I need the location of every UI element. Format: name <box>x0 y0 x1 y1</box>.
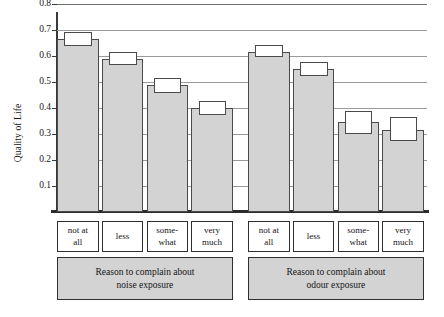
y-axis-tick-label: 0.1 <box>17 180 51 190</box>
y-axis-tick-label: 0.8 <box>17 0 51 8</box>
bar <box>191 108 233 212</box>
category-label-line1: some- <box>347 225 369 237</box>
y-axis-tick-label: 0.7 <box>17 24 51 34</box>
bar <box>248 52 290 212</box>
y-axis-tick-mark <box>52 56 57 57</box>
category-label-line2: much <box>202 237 222 249</box>
category-label-line1: not at <box>259 225 279 237</box>
category-label-box: verymuch <box>191 221 233 252</box>
y-axis-tick-mark <box>52 160 57 161</box>
confidence-interval-box <box>390 117 417 141</box>
group-label-line1: Reason to complain about <box>95 267 194 277</box>
group-label-line2: odour exposure <box>307 280 366 290</box>
confidence-interval-box <box>300 62 327 76</box>
quality-of-life-bar-chart: Quality of Life 0.80.70.60.50.40.30.20.1… <box>0 0 444 317</box>
confidence-interval-box <box>64 32 91 46</box>
category-label-line2: what <box>347 237 369 249</box>
y-axis-tick-label: 0.3 <box>17 128 51 138</box>
y-axis-tick-label: 0.4 <box>17 102 51 112</box>
group-label-band: Reason to complain aboutodour exposure <box>248 257 424 300</box>
y-axis-tick-mark <box>52 108 57 109</box>
group-label-line1: Reason to complain about <box>286 267 385 277</box>
y-axis-tick-mark <box>52 134 57 135</box>
category-label-line2: much <box>393 237 413 249</box>
gridline <box>57 4 427 5</box>
y-axis-tick-mark <box>52 30 57 31</box>
y-axis-tick-label: 0.5 <box>17 76 51 86</box>
category-label-line1: less <box>307 231 321 243</box>
bar <box>102 59 144 212</box>
bar <box>293 69 335 212</box>
confidence-interval-box <box>255 45 282 57</box>
gridline <box>57 30 427 31</box>
category-label-box: less <box>293 221 335 252</box>
category-label-line1: less <box>116 231 130 243</box>
plot-area <box>57 10 427 212</box>
bar <box>57 39 99 212</box>
category-label-line2: all <box>68 237 88 249</box>
bar <box>147 85 189 212</box>
category-label-line1: very <box>202 225 222 237</box>
category-label-box: some-what <box>147 221 189 252</box>
category-label-box: not atall <box>248 221 290 252</box>
bar <box>382 130 424 212</box>
category-label-line1: very <box>393 225 413 237</box>
category-label-line1: not at <box>68 225 88 237</box>
group-label-line2: noise exposure <box>117 280 174 290</box>
y-axis-tick-mark <box>52 82 57 83</box>
category-label-box: verymuch <box>382 221 424 252</box>
category-label-line2: all <box>259 237 279 249</box>
y-axis-tick-mark <box>52 186 57 187</box>
confidence-interval-box <box>109 52 136 65</box>
y-axis-tick-label: 0.6 <box>17 50 51 60</box>
category-label-line2: what <box>156 237 178 249</box>
y-axis-tick-label: 0.2 <box>17 154 51 164</box>
confidence-interval-box <box>154 78 181 93</box>
category-label-box: less <box>102 221 144 252</box>
y-axis-tick-mark <box>52 4 57 5</box>
category-label-box: some-what <box>338 221 380 252</box>
category-label-box: not atall <box>57 221 99 252</box>
confidence-interval-box <box>199 101 226 116</box>
bar <box>338 122 380 212</box>
category-label-line1: some- <box>156 225 178 237</box>
confidence-interval-box <box>345 111 372 134</box>
group-label-band: Reason to complain aboutnoise exposure <box>57 257 233 300</box>
